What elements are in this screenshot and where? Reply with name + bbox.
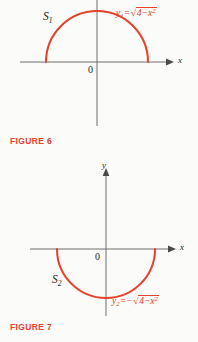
figure-6-radicand-exponent: 2 xyxy=(152,7,155,14)
figure-6-radical: √4−x2 xyxy=(130,7,157,18)
figure-6-equation: y1=√4−x2 xyxy=(116,7,157,19)
figure-7-y-axis-label: y xyxy=(102,161,106,170)
figure-6-block: x 0 S1 y1=√4−x2 FIGURE 6 xyxy=(0,0,198,160)
figure-6-caption: FIGURE 6 xyxy=(10,136,52,146)
figure-7-radicand-text: 4−x xyxy=(139,296,154,306)
figure-7-region-subscript: 2 xyxy=(58,279,62,288)
figure-7-origin-label: 0 xyxy=(95,252,100,262)
figure-6-x-axis-label: x xyxy=(178,56,182,65)
figure-7-block: y x 0 S2 y2=−√4−x2 FIGURE 7 xyxy=(0,160,198,342)
figure-6-region-subscript: 1 xyxy=(49,16,53,25)
figure-7-x-axis-label: x xyxy=(180,243,184,252)
figure-6-radicand: 4−x2 xyxy=(136,7,157,18)
figure-7-radicand-exponent: 2 xyxy=(155,295,158,302)
figure-7-radical: √4−x2 xyxy=(132,295,159,306)
figure-7-region-label: S2 xyxy=(52,274,62,288)
figure-7-x-axis-arrow-icon xyxy=(168,246,176,253)
figure-6-origin-label: 0 xyxy=(88,65,93,75)
figure-7-caption: FIGURE 7 xyxy=(10,322,52,332)
figure-6-radicand-text: 4−x xyxy=(137,8,152,18)
figure-6-x-axis-arrow-icon xyxy=(166,59,174,66)
figure-6-plot xyxy=(0,0,198,132)
figure-7-radicand: 4−x2 xyxy=(138,295,159,306)
figure-7-plot xyxy=(0,160,198,318)
figure-6-region-label: S1 xyxy=(43,11,53,25)
figure-7-equation: y2=−√4−x2 xyxy=(112,295,159,307)
